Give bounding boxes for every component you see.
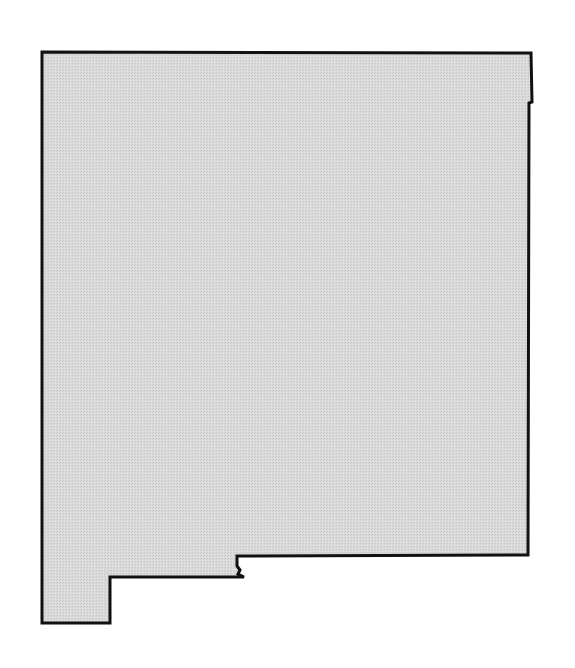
state-outline-new-mexico: [42, 52, 532, 623]
map-canvas: [0, 0, 575, 668]
